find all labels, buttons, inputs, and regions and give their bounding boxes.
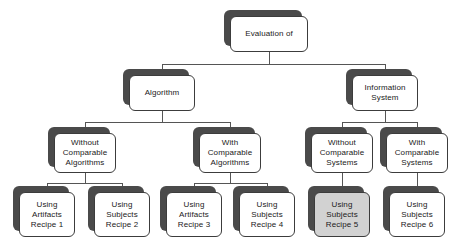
node-recipe-4[interactable]: UsingSubjectsRecipe 4 [239,192,295,237]
node-label-line: Artifacts [32,210,62,220]
node-label-line: Algorithms [66,158,105,168]
node-label-line: Information [364,83,405,93]
node-recipe-6[interactable]: UsingSubjectsRecipe 6 [389,192,445,237]
node-information-system[interactable]: InformationSystem [352,75,418,111]
node-recipe-3[interactable]: UsingArtifactsRecipe 3 [166,192,222,237]
node-label-line: Comparable [320,148,365,158]
node-label-line: Systems [401,158,432,168]
node-label-line: Without [71,138,99,148]
node-label-line: Using [112,200,133,210]
node-face: InformationSystem [352,75,418,111]
node-label-line: Using [257,200,278,210]
node-label-line: Artifacts [179,210,209,220]
node-label-line: Comparable [395,148,440,158]
node-label-line: Using [37,200,58,210]
node-without-comparable-systems[interactable]: WithoutComparableSystems [311,133,373,173]
node-label-line: Subjects [251,210,282,220]
node-label-line: Recipe 6 [401,220,433,230]
node-label-line: Using [407,200,428,210]
node-label-line: Using [332,200,353,210]
node-without-comparable-algorithms[interactable]: WithoutComparableAlgorithms [54,133,116,173]
node-with-comparable-systems[interactable]: WithComparableSystems [386,133,448,173]
node-face: WithComparableAlgorithms [199,133,261,173]
node-label-line: Evaluation of [245,29,293,39]
node-label-line: Comparable [208,148,253,158]
node-label-line: Algorithm [145,88,180,98]
node-face: WithoutComparableAlgorithms [54,133,116,173]
node-recipe-5[interactable]: UsingSubjectsRecipe 5 [314,192,370,237]
node-face: UsingArtifactsRecipe 1 [19,192,75,237]
node-face: UsingArtifactsRecipe 3 [166,192,222,237]
node-face: WithComparableSystems [386,133,448,173]
node-label-line: Algorithms [211,158,250,168]
node-label-line: Recipe 2 [106,220,138,230]
node-label-line: Without [328,138,356,148]
node-label-line: Systems [326,158,357,168]
node-with-comparable-algorithms[interactable]: WithComparableAlgorithms [199,133,261,173]
node-recipe-1[interactable]: UsingArtifactsRecipe 1 [19,192,75,237]
node-label-line: With [409,138,425,148]
node-label-line: Recipe 1 [31,220,63,230]
node-label-line: Recipe 5 [326,220,358,230]
node-label-line: Recipe 3 [178,220,210,230]
node-face: Evaluation of [230,16,308,52]
evaluation-taxonomy-diagram: Evaluation ofAlgorithmInformationSystemW… [0,0,455,247]
node-face: UsingSubjectsRecipe 4 [239,192,295,237]
node-face: WithoutComparableSystems [311,133,373,173]
node-label-line: Comparable [63,148,108,158]
node-face: UsingSubjectsRecipe 2 [94,192,150,237]
node-face: Algorithm [129,75,195,111]
node-label-line: Subjects [326,210,357,220]
node-label-line: Subjects [106,210,137,220]
node-label-line: Recipe 4 [251,220,283,230]
node-algorithm[interactable]: Algorithm [129,75,195,111]
node-label-line: With [222,138,238,148]
node-face: UsingSubjectsRecipe 6 [389,192,445,237]
node-face: UsingSubjectsRecipe 5 [314,192,370,237]
node-label-line: Using [184,200,205,210]
node-label-line: Subjects [401,210,432,220]
node-root[interactable]: Evaluation of [230,16,308,52]
node-recipe-2[interactable]: UsingSubjectsRecipe 2 [94,192,150,237]
node-label-line: System [371,93,398,103]
